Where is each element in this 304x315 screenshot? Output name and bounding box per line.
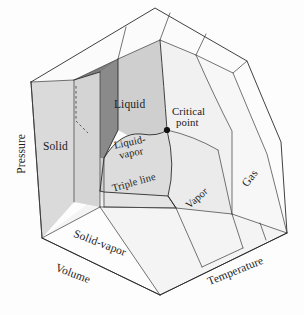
- pvt-phase-diagram: .edge { fill:none; stroke:#2b2b2b; strok…: [0, 0, 304, 315]
- surface-solid: [31, 80, 74, 238]
- region-label-solid: Solid: [43, 141, 68, 153]
- critical-point-dot: [164, 127, 170, 133]
- feature-label-critical-point: Critical point: [172, 106, 205, 129]
- axis-label-pressure: Pressure: [16, 119, 28, 189]
- region-label-liquid: Liquid: [114, 99, 145, 111]
- critical-point-line2: point: [176, 117, 209, 128]
- surface-solid-inner: [74, 72, 100, 207]
